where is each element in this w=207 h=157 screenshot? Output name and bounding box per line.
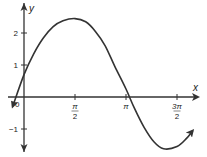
x-tick-label-den: 2 bbox=[175, 112, 180, 121]
y-axis-label: y bbox=[28, 3, 35, 14]
x-tick-label: 3π bbox=[172, 102, 182, 111]
x-tick-label: π bbox=[123, 102, 129, 111]
y-tick-label: 2 bbox=[14, 29, 19, 38]
x-tick-label-den: 2 bbox=[73, 112, 78, 121]
curve-line bbox=[13, 19, 193, 149]
axes bbox=[8, 3, 198, 152]
x-axis-label: x bbox=[192, 82, 199, 93]
y-tick-label: −1 bbox=[9, 125, 19, 134]
sine-curve-chart: π2π3π2−112 x y 0 bbox=[0, 0, 207, 157]
x-tick-label: π bbox=[72, 102, 78, 111]
ticks: π2π3π2−112 bbox=[9, 29, 183, 134]
y-tick-label: 1 bbox=[14, 61, 19, 70]
